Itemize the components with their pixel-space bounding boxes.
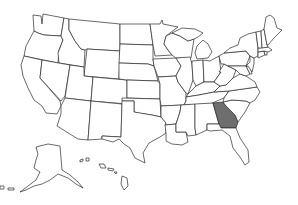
state-pennsylvania: Pennsylvania — [219, 51, 250, 66]
state-wyoming: Wyoming — [84, 49, 120, 79]
us-map: WashingtonOregonCaliforniaIdahoNevadaMon… — [0, 0, 298, 205]
state-kansas: Kansas — [127, 80, 160, 99]
state-alaska: Alaska — [0, 144, 83, 192]
state-indiana: Indiana — [192, 60, 204, 86]
state-north-dakota: North Dakota — [120, 24, 153, 45]
state-nebraska: Nebraska — [119, 63, 158, 81]
state-arizona: Arizona — [57, 98, 91, 140]
state-hawaii: Hawaii — [80, 158, 128, 190]
state-south-dakota: South Dakota — [119, 44, 154, 66]
state-colorado: Colorado — [91, 77, 127, 104]
state-new-mexico: New Mexico — [88, 101, 122, 140]
state-florida: Florida — [207, 124, 249, 165]
state-maine: Maine — [264, 15, 282, 45]
